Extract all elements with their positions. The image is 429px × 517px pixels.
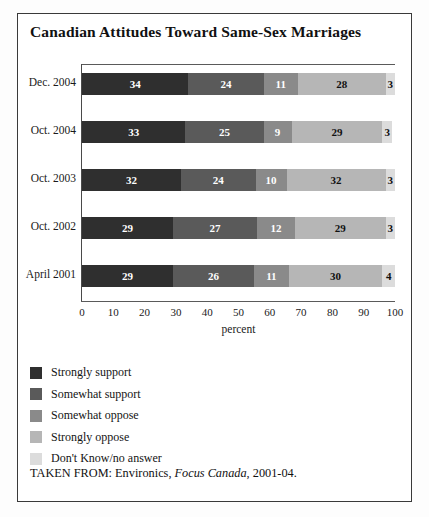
bar-category-label: Dec. 2004 <box>18 76 76 88</box>
legend-label: Don't Know/no answer <box>51 451 162 466</box>
bar-segment-somewhat-oppose: 11 <box>264 73 298 95</box>
bar-segment-strongly-support: 32 <box>82 169 181 191</box>
stacked-bar: 29 26 11 30 4 <box>82 265 395 287</box>
bar-segment-strongly-support: 29 <box>82 217 173 239</box>
bar-segment-strongly-oppose: 28 <box>298 73 386 95</box>
bar-segment-somewhat-oppose: 10 <box>256 169 287 191</box>
bar-segment-strongly-support: 29 <box>82 265 173 287</box>
x-axis-tick-100: 100 <box>387 306 404 318</box>
legend-item: Somewhat support <box>30 384 330 406</box>
legend-swatch-icon <box>30 410 42 422</box>
source-publication: Focus Canada <box>175 466 247 480</box>
legend-item: Strongly oppose <box>30 427 330 449</box>
bar-segment-dont-know: 3 <box>386 169 395 191</box>
stacked-bar: 34 24 11 28 3 <box>82 73 395 95</box>
bar-category-label: Oct. 2002 <box>18 220 76 232</box>
legend-swatch-icon <box>30 431 42 443</box>
bar-segment-strongly-oppose: 29 <box>295 217 386 239</box>
stacked-bar: 29 27 12 29 3 <box>82 217 395 239</box>
x-axis-tick-0: 0 <box>79 306 85 318</box>
bar-segment-strongly-oppose: 30 <box>289 265 383 287</box>
table-row: April 2001 29 26 11 30 4 <box>18 265 413 287</box>
legend-label: Somewhat support <box>51 387 141 402</box>
figure-page: Canadian Attitudes Toward Same-Sex Marri… <box>0 0 429 517</box>
bar-segment-strongly-oppose: 32 <box>287 169 386 191</box>
bar-segment-somewhat-support: 27 <box>173 217 258 239</box>
legend-swatch-icon <box>30 453 42 465</box>
bar-category-label: Oct. 2004 <box>18 124 76 136</box>
legend-item: Somewhat oppose <box>30 405 330 427</box>
legend-label: Somewhat oppose <box>51 408 139 423</box>
bar-segment-strongly-oppose: 29 <box>292 121 383 143</box>
bar-segment-strongly-support: 33 <box>82 121 185 143</box>
stacked-bar: 32 24 10 32 3 <box>82 169 395 191</box>
x-axis-tick-60: 60 <box>264 306 275 318</box>
legend-item: Strongly support <box>30 362 330 384</box>
x-axis-ticks: 0102030405060708090100 <box>18 306 413 322</box>
bar-segment-dont-know: 3 <box>386 73 395 95</box>
chart-plot-area: Dec. 2004 34 24 11 28 3 Oct. 2004 33 25 … <box>18 51 413 313</box>
legend-label: Strongly oppose <box>51 430 129 445</box>
x-axis-label: percent <box>18 323 413 335</box>
table-row: Oct. 2004 33 25 9 29 3 <box>18 121 413 143</box>
bar-category-label: April 2001 <box>18 268 76 280</box>
legend-label: Strongly support <box>51 365 131 380</box>
bar-segment-somewhat-support: 24 <box>181 169 255 191</box>
bar-segment-dont-know: 4 <box>382 265 395 287</box>
bar-category-label: Oct. 2003 <box>18 172 76 184</box>
bar-segment-dont-know: 3 <box>386 217 395 239</box>
stacked-bar: 33 25 9 29 3 <box>82 121 395 143</box>
x-axis-tick-90: 90 <box>358 306 369 318</box>
source-prefix: TAKEN FROM: Environics, <box>30 466 175 480</box>
x-axis-tick-20: 20 <box>139 306 150 318</box>
table-row: Dec. 2004 34 24 11 28 3 <box>18 73 413 95</box>
legend-swatch-icon <box>30 388 42 400</box>
page-title: Canadian Attitudes Toward Same-Sex Marri… <box>30 23 361 41</box>
source-caption: TAKEN FROM: Environics, Focus Canada, 20… <box>30 466 297 481</box>
axis-line-top <box>81 64 395 65</box>
bar-segment-dont-know: 3 <box>382 121 391 143</box>
bar-segment-somewhat-oppose: 12 <box>257 217 295 239</box>
legend-swatch-icon <box>30 367 42 379</box>
x-axis-tick-70: 70 <box>296 306 307 318</box>
bar-segment-somewhat-oppose: 9 <box>264 121 292 143</box>
x-axis-tick-80: 80 <box>327 306 338 318</box>
bar-segment-strongly-support: 34 <box>82 73 188 95</box>
x-axis-tick-30: 30 <box>170 306 181 318</box>
source-suffix: , 2001-04. <box>247 466 297 480</box>
x-axis-tick-10: 10 <box>108 306 119 318</box>
bar-segment-somewhat-support: 25 <box>185 121 263 143</box>
x-axis-tick-40: 40 <box>202 306 213 318</box>
figure-frame: Canadian Attitudes Toward Same-Sex Marri… <box>17 13 412 502</box>
bar-segment-somewhat-oppose: 11 <box>254 265 288 287</box>
x-axis-tick-50: 50 <box>233 306 244 318</box>
table-row: Oct. 2003 32 24 10 32 3 <box>18 169 413 191</box>
bar-segment-somewhat-support: 26 <box>173 265 254 287</box>
table-row: Oct. 2002 29 27 12 29 3 <box>18 217 413 239</box>
x-axis-line <box>81 301 395 302</box>
bar-segment-somewhat-support: 24 <box>188 73 263 95</box>
x-axis-label-text: percent <box>222 323 256 335</box>
chart-legend: Strongly supportSomewhat supportSomewhat… <box>30 362 330 470</box>
